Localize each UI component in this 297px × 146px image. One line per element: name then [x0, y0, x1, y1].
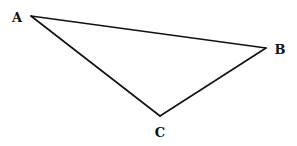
vertex-label-b: B — [275, 42, 286, 57]
vertex-label-c: C — [155, 125, 165, 140]
triangle-svg: A B C — [0, 0, 297, 146]
triangle-diagram: A B C — [0, 0, 297, 146]
vertex-label-a: A — [11, 10, 23, 25]
edge-bc — [160, 48, 266, 116]
